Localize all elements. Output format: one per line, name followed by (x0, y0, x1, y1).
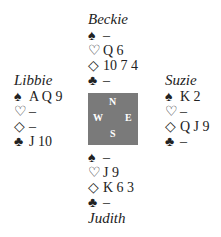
south-player-name: Judith (88, 210, 134, 227)
heart-icon: ♡ (165, 104, 180, 119)
heart-icon: ♡ (88, 165, 103, 180)
diamond-icon: ◇ (14, 119, 29, 134)
east-hearts: ♡– (165, 104, 210, 119)
compass-east: E (125, 112, 132, 123)
north-hearts: ♡Q 6 (88, 43, 138, 58)
west-diamonds: ◇– (14, 119, 62, 134)
west-clubs: ♣J 10 (14, 134, 62, 149)
club-icon: ♣ (88, 195, 103, 210)
club-icon: ♣ (165, 134, 180, 149)
south-hand: ♠– ♡J 9 ◇K 6 3 ♣– Judith (88, 150, 134, 227)
compass-south: S (110, 128, 116, 139)
compass-west: W (93, 112, 103, 123)
heart-icon: ♡ (14, 104, 29, 119)
south-diamonds: ◇K 6 3 (88, 180, 134, 195)
north-player-name: Beckie (88, 11, 138, 28)
east-hand: Suzie ♠K 2 ♡– ◇Q J 9 ♣– (165, 72, 210, 149)
compass-box: N W E S (88, 93, 138, 145)
diamond-icon: ◇ (88, 58, 103, 73)
north-hand: Beckie ♠– ♡Q 6 ◇10 7 4 ♣– (88, 11, 138, 88)
east-player-name: Suzie (165, 72, 210, 89)
west-hand: Libbie ♠A Q 9 ♡– ◇– ♣J 10 (14, 72, 62, 149)
diamond-icon: ◇ (88, 180, 103, 195)
west-hearts: ♡– (14, 104, 62, 119)
spade-icon: ♠ (14, 89, 29, 104)
spade-icon: ♠ (165, 89, 180, 104)
spade-icon: ♠ (88, 150, 103, 165)
west-player-name: Libbie (14, 72, 62, 89)
heart-icon: ♡ (88, 43, 103, 58)
east-clubs: ♣– (165, 134, 210, 149)
spade-icon: ♠ (88, 28, 103, 43)
club-icon: ♣ (14, 134, 29, 149)
south-spades: ♠– (88, 150, 134, 165)
south-hearts: ♡J 9 (88, 165, 134, 180)
compass-north: N (109, 96, 116, 107)
north-diamonds: ◇10 7 4 (88, 58, 138, 73)
north-spades: ♠– (88, 28, 138, 43)
south-clubs: ♣– (88, 195, 134, 210)
club-icon: ♣ (88, 73, 103, 88)
west-spades: ♠A Q 9 (14, 89, 62, 104)
east-spades: ♠K 2 (165, 89, 210, 104)
north-clubs: ♣– (88, 73, 138, 88)
east-diamonds: ◇Q J 9 (165, 119, 210, 134)
diamond-icon: ◇ (165, 119, 180, 134)
